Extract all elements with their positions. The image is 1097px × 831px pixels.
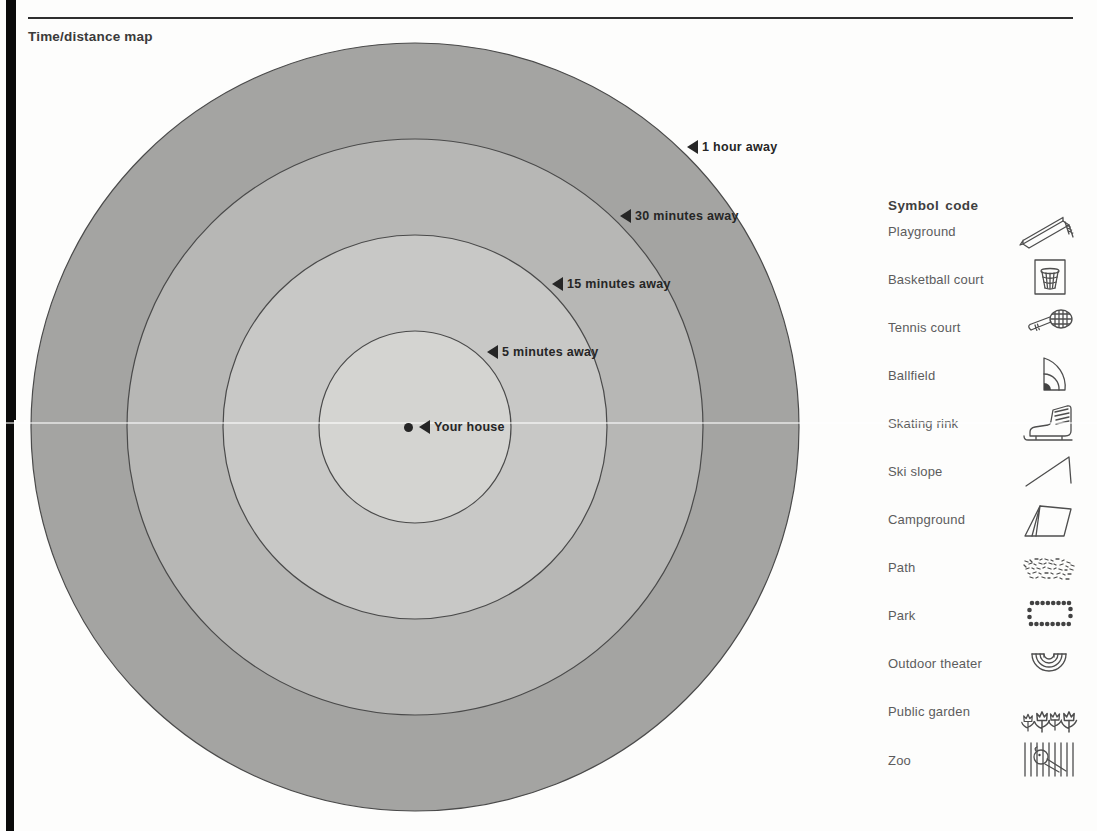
legend-item-label: Skating rink bbox=[888, 416, 958, 431]
legend-item-campground: Campground bbox=[888, 496, 1080, 544]
arrow-left-icon bbox=[552, 277, 563, 291]
arrow-left-icon bbox=[487, 345, 498, 359]
ring-label-1-hour: 1 hour away bbox=[687, 140, 778, 154]
tent-icon bbox=[1018, 498, 1080, 542]
legend-item-path: Path bbox=[888, 544, 1080, 592]
basketball-hoop-icon bbox=[1018, 257, 1080, 301]
dotted-rectangle-icon bbox=[1018, 594, 1080, 638]
legend-item-label: Playground bbox=[888, 224, 956, 239]
tulips-icon bbox=[1018, 690, 1080, 734]
legend-item-label: Public garden bbox=[888, 704, 970, 719]
ring-label-5-minutes: 5 minutes away bbox=[487, 345, 599, 359]
ring-label-30-minutes: 30 minutes away bbox=[620, 209, 739, 223]
legend-item-skating-rink: Skating rink bbox=[888, 399, 1080, 447]
legend-item-playground: Playground bbox=[888, 207, 1080, 255]
ring-label-text: 30 minutes away bbox=[635, 209, 739, 223]
arrow-left-icon bbox=[419, 420, 430, 434]
legend-item-label: Zoo bbox=[888, 753, 911, 768]
legend-item-label: Outdoor theater bbox=[888, 656, 982, 671]
legend-item-ski-slope: Ski slope bbox=[888, 447, 1080, 495]
scanned-page: Time/distance map 1 hour away 30 minutes… bbox=[0, 0, 1097, 831]
arrow-left-icon bbox=[620, 209, 631, 223]
legend-item-label: Park bbox=[888, 608, 916, 623]
legend-item-park: Park bbox=[888, 592, 1080, 640]
legend-item-zoo: Zoo bbox=[888, 736, 1080, 784]
legend-item-tennis-court: Tennis court bbox=[888, 303, 1080, 351]
symbol-code-legend: Playground Basketball court bbox=[888, 207, 1080, 784]
tennis-racket-icon bbox=[1018, 305, 1080, 349]
legend-item-label: Campground bbox=[888, 512, 965, 527]
ring-label-text: 1 hour away bbox=[702, 140, 778, 154]
legend-item-label: Ski slope bbox=[888, 464, 943, 479]
legend-item-public-garden: Public garden bbox=[888, 688, 1080, 736]
your-house-dot bbox=[404, 423, 413, 432]
ice-skate-icon bbox=[1018, 401, 1080, 445]
ring-label-text: 5 minutes away bbox=[502, 345, 599, 359]
legend-item-basketball-court: Basketball court bbox=[888, 255, 1080, 303]
center-label-your-house: Your house bbox=[404, 420, 505, 434]
path-texture-icon bbox=[1018, 546, 1080, 590]
ring-label-text: Your house bbox=[434, 420, 505, 434]
ring-label-text: 15 minutes away bbox=[567, 277, 671, 291]
amphitheater-icon bbox=[1018, 642, 1080, 686]
legend-item-label: Tennis court bbox=[888, 320, 961, 335]
ring-label-15-minutes: 15 minutes away bbox=[552, 277, 671, 291]
legend-item-label: Basketball court bbox=[888, 272, 984, 287]
legend-item-label: Ballfield bbox=[888, 368, 935, 383]
arrow-left-icon bbox=[687, 140, 698, 154]
ballfield-icon bbox=[1018, 353, 1080, 397]
legend-item-outdoor-theater: Outdoor theater bbox=[888, 640, 1080, 688]
legend-item-label: Path bbox=[888, 560, 916, 575]
playground-slide-icon bbox=[1018, 209, 1080, 253]
ski-slope-icon bbox=[1018, 450, 1080, 494]
legend-item-ballfield: Ballfield bbox=[888, 351, 1080, 399]
cage-bars-icon bbox=[1018, 738, 1080, 782]
